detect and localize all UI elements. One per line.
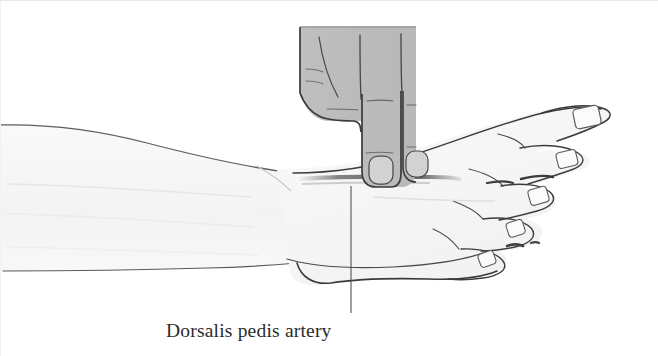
fingernail-middle: [406, 151, 428, 177]
foot-group: [257, 105, 610, 286]
lower-leg-group: [1, 125, 297, 271]
ball-of-foot-mark-2: [531, 242, 539, 243]
annotation-label: Dorsalis pedis artery: [166, 320, 332, 341]
fingernail-index: [369, 156, 393, 184]
leg-shape-texture: [1, 125, 289, 271]
examiner-hand-group: [300, 26, 428, 187]
medical-illustration-figure: Dorsalis pedis artery: [0, 0, 658, 356]
illustration-canvas: Dorsalis pedis artery: [1, 1, 658, 356]
foot-shape-texture: [277, 105, 610, 285]
